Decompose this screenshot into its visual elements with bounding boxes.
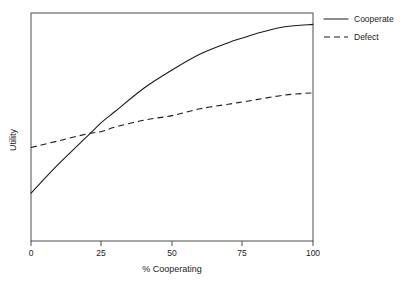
x-axis-tick-labels: 0 25 50 75 100 [29,248,321,258]
x-tick-label-25: 25 [96,248,106,258]
y-axis-title: Utility [8,129,18,151]
legend-label-cooperate: Cooperate [354,14,394,24]
x-tick-label-75: 75 [237,248,247,258]
plot-frame [31,13,313,241]
series-line-defect [31,93,313,148]
chart-figure: 0 25 50 75 100 % Cooperating Utility Coo… [0,0,406,285]
series-line-cooperate [31,24,313,193]
legend-label-defect: Defect [354,32,379,42]
x-axis-title: % Cooperating [142,264,202,274]
chart-canvas: 0 25 50 75 100 % Cooperating Utility Coo… [0,0,406,285]
x-tick-label-50: 50 [167,248,177,258]
x-axis-ticks [31,241,313,246]
chart-legend: Cooperate Defect [324,14,394,42]
x-tick-label-100: 100 [306,248,320,258]
x-tick-label-0: 0 [29,248,34,258]
